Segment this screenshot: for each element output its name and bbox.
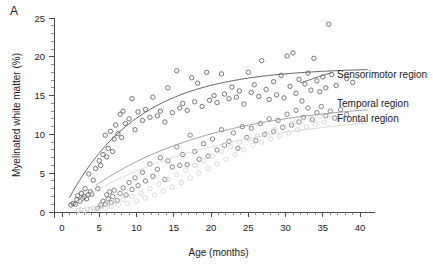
- data-point: [254, 138, 258, 142]
- data-point: [185, 162, 189, 166]
- data-point: [306, 71, 310, 75]
- data-point: [206, 154, 210, 158]
- data-point: [309, 88, 313, 92]
- data-point: [285, 54, 289, 58]
- data-point: [99, 163, 103, 167]
- data-point: [249, 126, 253, 130]
- fit-curve-0: [69, 70, 367, 198]
- data-point: [119, 135, 123, 139]
- legend-layer: Sensorimotor regionTemporal regionFronta…: [300, 69, 427, 124]
- data-point: [233, 152, 237, 156]
- data-point: [179, 180, 183, 184]
- data-point: [246, 70, 250, 74]
- data-point: [219, 72, 223, 76]
- data-point: [192, 163, 196, 167]
- data-point: [91, 178, 95, 182]
- data-point: [136, 110, 140, 114]
- data-point: [195, 81, 199, 85]
- data-point: [118, 191, 122, 195]
- data-point: [210, 137, 214, 141]
- data-point: [175, 69, 179, 73]
- data-point: [188, 133, 192, 137]
- data-point: [304, 124, 308, 128]
- data-point: [215, 100, 219, 104]
- fit-curve-2: [77, 123, 368, 202]
- data-point: [151, 174, 155, 178]
- data-point: [170, 110, 174, 114]
- data-point: [227, 97, 231, 101]
- data-point: [327, 22, 331, 26]
- legend-leader-line: [300, 72, 333, 83]
- fit-curves-layer: [69, 70, 367, 202]
- data-point: [170, 185, 174, 189]
- data-point: [158, 155, 162, 159]
- figure-panel: A 05101520253035400510152025 Sensorimoto…: [0, 0, 433, 277]
- data-point: [148, 115, 152, 119]
- data-point: [178, 106, 182, 110]
- y-tick-label: 20: [34, 51, 45, 62]
- data-point: [291, 51, 295, 55]
- x-tick-label: 25: [243, 222, 254, 233]
- data-point: [268, 137, 272, 141]
- data-point: [121, 197, 125, 201]
- x-tick-label: 35: [318, 222, 329, 233]
- data-point: [166, 86, 170, 90]
- data-point: [197, 171, 201, 175]
- data-point: [322, 120, 326, 124]
- data-point: [108, 129, 112, 133]
- data-point: [178, 163, 182, 167]
- series-points-2: [76, 113, 340, 213]
- data-point: [252, 83, 256, 87]
- data-point: [116, 203, 120, 207]
- y-tick-label: 25: [34, 13, 45, 24]
- data-point: [152, 193, 156, 197]
- data-point: [163, 120, 167, 124]
- data-point: [324, 114, 328, 118]
- data-point: [294, 91, 298, 95]
- data-point: [271, 79, 275, 83]
- data-point: [170, 165, 174, 169]
- data-point: [127, 117, 131, 121]
- x-tick-label: 30: [280, 222, 291, 233]
- data-point: [87, 172, 91, 176]
- y-tick-label: 5: [40, 168, 45, 179]
- data-point: [158, 109, 162, 113]
- y-tick-label: 15: [34, 90, 45, 101]
- data-point: [112, 137, 116, 141]
- data-point: [130, 97, 134, 101]
- data-point: [318, 90, 322, 94]
- data-point: [313, 122, 317, 126]
- data-point: [251, 143, 255, 147]
- data-point: [318, 114, 322, 118]
- data-point: [257, 94, 261, 98]
- scatter-plot: 05101520253035400510152025 Sensorimotor …: [0, 0, 433, 277]
- data-point: [236, 146, 240, 150]
- data-point: [136, 183, 140, 187]
- data-point: [204, 70, 208, 74]
- data-point: [134, 199, 138, 203]
- data-point: [110, 194, 114, 198]
- y-tick-label: 10: [34, 129, 45, 140]
- data-point: [161, 189, 165, 193]
- data-point: [124, 193, 128, 197]
- data-point: [237, 89, 241, 93]
- data-point: [143, 196, 147, 200]
- data-point: [242, 148, 246, 152]
- data-point: [282, 124, 286, 128]
- data-point: [83, 187, 87, 191]
- data-point: [101, 199, 105, 203]
- data-point: [200, 104, 204, 108]
- data-point: [106, 197, 110, 201]
- data-point: [97, 159, 101, 163]
- data-point: [201, 142, 205, 146]
- data-point: [157, 182, 161, 186]
- data-point: [324, 86, 328, 90]
- data-point: [297, 77, 301, 81]
- data-point: [184, 168, 188, 172]
- data-point: [303, 82, 307, 86]
- data-point: [231, 131, 235, 135]
- data-point: [79, 207, 83, 211]
- data-point: [274, 93, 278, 97]
- data-point: [282, 96, 286, 100]
- data-point: [140, 170, 144, 174]
